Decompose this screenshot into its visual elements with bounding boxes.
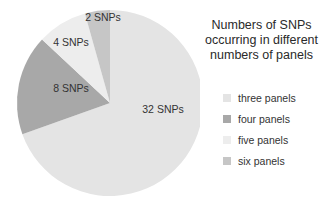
chart-title: Numbers of SNPs occurring in different n…	[200, 18, 323, 63]
legend-label: six panels	[238, 155, 285, 167]
title-line-2: occurring in different	[200, 33, 323, 48]
data-label: 8 SNPs	[53, 82, 89, 94]
pie-chart: 32 SNPs8 SNPs4 SNPs2 SNPs	[0, 0, 200, 201]
data-label: 2 SNPs	[85, 11, 121, 23]
legend-swatch	[223, 94, 231, 102]
legend-label: three panels	[238, 92, 296, 104]
legend: three panels four panels five panels six…	[223, 87, 296, 171]
data-label: 32 SNPs	[142, 103, 183, 115]
title-line-3: numbers of panels	[200, 48, 323, 63]
legend-label: five panels	[238, 134, 288, 146]
legend-item-six-panels: six panels	[223, 150, 296, 171]
title-line-1: Numbers of SNPs	[200, 18, 323, 33]
legend-item-four-panels: four panels	[223, 108, 296, 129]
legend-swatch	[223, 157, 231, 165]
legend-label: four panels	[238, 113, 290, 125]
legend-item-five-panels: five panels	[223, 129, 296, 150]
legend-swatch	[223, 136, 231, 144]
data-label: 4 SNPs	[53, 36, 89, 48]
legend-swatch	[223, 115, 231, 123]
legend-item-three-panels: three panels	[223, 87, 296, 108]
